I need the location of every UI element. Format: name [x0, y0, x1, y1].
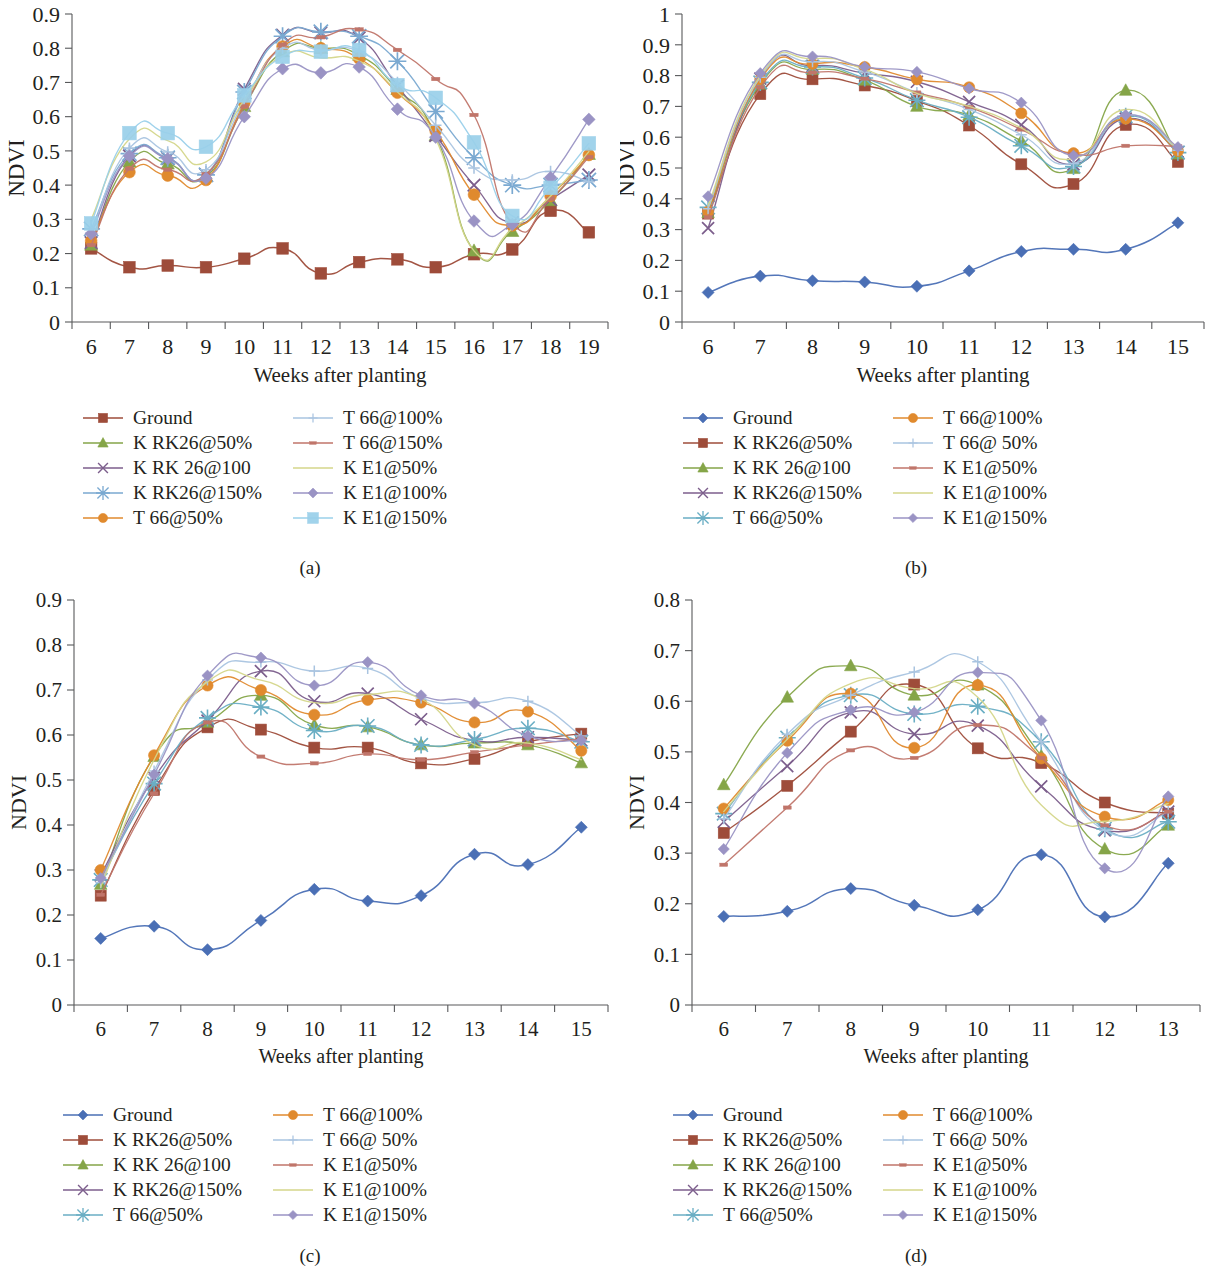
legend-item[interactable]: K E1@150%: [882, 1202, 1037, 1227]
legend-marker-icon: [882, 1107, 924, 1123]
chart-a-plot: 00.10.20.30.40.50.60.70.80.9678910111213…: [0, 0, 620, 400]
legend-item[interactable]: T 66@150%: [292, 430, 447, 455]
legend-item[interactable]: K RK 26@100: [82, 455, 262, 480]
legend-item[interactable]: K RK26@50%: [682, 430, 862, 455]
y-tick-label: 0.7: [36, 678, 62, 702]
legend-marker-icon: [882, 1182, 924, 1198]
x-tick-label: 17: [501, 334, 523, 359]
legend-item[interactable]: T 66@ 50%: [882, 1127, 1037, 1152]
legend-item[interactable]: K RK26@150%: [62, 1177, 242, 1202]
x-tick-label: 6: [86, 334, 97, 359]
legend-item[interactable]: K E1@150%: [292, 505, 447, 530]
legend-item[interactable]: K E1@50%: [892, 455, 1047, 480]
chart-b-legend: GroundK RK26@50%K RK 26@100K RK26@150%T …: [682, 405, 1047, 530]
x-tick-label: 11: [358, 1017, 378, 1041]
legend-marker-icon: [272, 1207, 314, 1223]
legend-label: K E1@150%: [343, 508, 447, 528]
legend-marker-icon: [62, 1107, 104, 1123]
y-tick-label: 0: [670, 993, 681, 1017]
legend-item[interactable]: K RK 26@100: [672, 1152, 852, 1177]
chart-d-svg: 00.10.20.30.40.50.60.70.8678910111213NDV…: [620, 590, 1212, 1090]
x-tick-label: 13: [1063, 334, 1085, 359]
y-tick-label: 0.6: [654, 690, 680, 714]
x-tick-label: 8: [846, 1017, 857, 1041]
legend-column: GroundK RK26@50%K RK 26@100K RK26@150%T …: [82, 405, 262, 530]
legend-item[interactable]: T 66@100%: [892, 405, 1047, 430]
x-tick-label: 13: [464, 1017, 485, 1041]
legend-item[interactable]: K RK26@50%: [62, 1127, 242, 1152]
legend-item[interactable]: Ground: [682, 405, 862, 430]
legend-item[interactable]: Ground: [82, 405, 262, 430]
legend-item[interactable]: K E1@50%: [292, 455, 447, 480]
legend-item[interactable]: T 66@50%: [672, 1202, 852, 1227]
legend-label: T 66@150%: [343, 433, 442, 453]
legend-label: K RK 26@100: [723, 1155, 841, 1175]
legend-marker-icon: [892, 485, 934, 501]
legend-marker-icon: [272, 1107, 314, 1123]
legend-item[interactable]: T 66@100%: [272, 1102, 427, 1127]
y-tick-label: 0.6: [33, 104, 61, 129]
legend-label: T 66@50%: [133, 508, 223, 528]
y-axis-d: 00.10.20.30.40.50.60.70.8: [654, 590, 692, 1017]
panel-b: 00.10.20.30.40.50.60.70.80.9167891011121…: [620, 0, 1212, 590]
legend-marker-icon: [82, 435, 124, 451]
series-line: [101, 670, 582, 887]
legend-item[interactable]: T 66@50%: [82, 505, 262, 530]
legend-item[interactable]: K RK26@150%: [672, 1177, 852, 1202]
legend-item[interactable]: K E1@100%: [292, 480, 447, 505]
legend-item[interactable]: T 66@50%: [62, 1202, 242, 1227]
x-tick-label: 6: [95, 1017, 106, 1041]
y-tick-label: 0.5: [643, 156, 671, 181]
y-tick-label: 0.3: [36, 858, 62, 882]
legend-marker-icon: [292, 460, 334, 476]
legend-item[interactable]: K E1@50%: [882, 1152, 1037, 1177]
legend-item[interactable]: K RK26@50%: [82, 430, 262, 455]
legend-marker-icon: [682, 460, 724, 476]
chart-d-plot: 00.10.20.30.40.50.60.70.8678910111213NDV…: [620, 590, 1212, 1090]
y-tick-label: 0.4: [33, 173, 61, 198]
legend-label: K RK26@150%: [723, 1180, 852, 1200]
legend-marker-icon: [82, 485, 124, 501]
legend-column: T 66@100%T 66@ 50%K E1@50%K E1@100%K E1@…: [892, 405, 1047, 530]
legend-item[interactable]: T 66@100%: [292, 405, 447, 430]
y-tick-label: 0.2: [643, 248, 671, 273]
panel-d-caption: (d): [620, 1245, 1212, 1267]
x-tick-label: 16: [463, 334, 485, 359]
y-tick-label: 0.7: [654, 639, 680, 663]
y-tick-label: 0.1: [36, 948, 62, 972]
legend-item[interactable]: K RK26@150%: [682, 480, 862, 505]
legend-item[interactable]: K E1@150%: [892, 505, 1047, 530]
legend-item[interactable]: K RK26@150%: [82, 480, 262, 505]
series-line: [97, 720, 586, 896]
legend-label: K E1@50%: [933, 1155, 1027, 1175]
legend-label: T 66@50%: [723, 1205, 813, 1225]
legend-item[interactable]: K E1@100%: [272, 1177, 427, 1202]
legend-item[interactable]: K E1@100%: [892, 480, 1047, 505]
legend-marker-icon: [682, 510, 724, 526]
y-tick-label: 0.3: [654, 841, 680, 865]
series-markers: [95, 821, 588, 955]
legend-item[interactable]: K E1@150%: [272, 1202, 427, 1227]
legend-item[interactable]: Ground: [62, 1102, 242, 1127]
x-tick-label: 10: [304, 1017, 325, 1041]
x-axis-d: 678910111213: [692, 1005, 1200, 1041]
legend-item[interactable]: T 66@50%: [682, 505, 862, 530]
legend-label: T 66@100%: [323, 1105, 422, 1125]
x-tick-label: 14: [1115, 334, 1137, 359]
legend-item[interactable]: K E1@100%: [882, 1177, 1037, 1202]
legend-label: T 66@ 50%: [323, 1130, 418, 1150]
legend-item[interactable]: K RK26@50%: [672, 1127, 852, 1152]
legend-item[interactable]: K RK 26@100: [62, 1152, 242, 1177]
y-axis-c: 00.10.20.30.40.50.60.70.80.9: [36, 590, 74, 1017]
panel-a-caption: (a): [0, 557, 620, 579]
legend-item[interactable]: Ground: [672, 1102, 852, 1127]
panel-c-caption: (c): [0, 1245, 620, 1267]
legend-item[interactable]: K E1@50%: [272, 1152, 427, 1177]
x-axis-title: Weeks after planting: [856, 363, 1030, 387]
legend-item[interactable]: K RK 26@100: [682, 455, 862, 480]
legend-item[interactable]: T 66@ 50%: [272, 1127, 427, 1152]
legend-label: K E1@50%: [323, 1155, 417, 1175]
x-tick-label: 8: [162, 334, 173, 359]
legend-item[interactable]: T 66@100%: [882, 1102, 1037, 1127]
legend-item[interactable]: T 66@ 50%: [892, 430, 1047, 455]
